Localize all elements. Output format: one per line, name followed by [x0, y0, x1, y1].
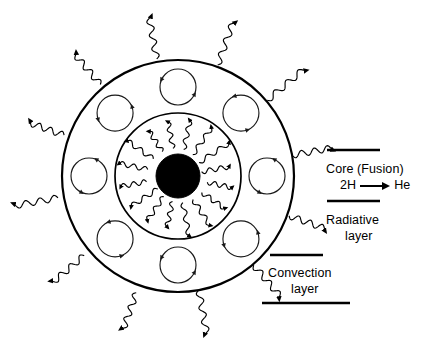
convection-rotation-arrow [158, 255, 164, 261]
radiative-wavy-ray [199, 141, 229, 163]
label-core-equation: 2H He [340, 178, 410, 193]
arrow-right-icon [360, 181, 390, 190]
convection-cell [160, 247, 196, 283]
convection-rotation-arrow [245, 127, 251, 133]
convection-rotation-arrow [105, 219, 111, 225]
convection-cell [223, 95, 259, 131]
convection-cell [160, 69, 196, 105]
convection-rotation-arrow [129, 103, 135, 109]
convection-cell [71, 158, 107, 194]
label-core-title: Core (Fusion) [326, 162, 404, 177]
radiative-wavy-ray [165, 201, 173, 228]
radiative-wavy-ray [202, 193, 227, 210]
emitted-wavy-ray [147, 15, 159, 59]
emitted-wavy-ray [218, 22, 237, 65]
radiative-wavy-ray [202, 165, 230, 173]
emitted-wavy-ray [289, 216, 326, 232]
convection-rotation-arrow [221, 243, 227, 249]
sun-structure-diagram: Core (Fusion) 2H He Radiative layer Conv… [0, 0, 425, 354]
emitted-wavy-ray [196, 290, 209, 336]
emitted-wavy-ray [267, 70, 307, 101]
convection-rotation-arrow [255, 229, 261, 235]
emitted-wavy-ray [12, 195, 58, 208]
radiative-wavy-ray [147, 197, 164, 222]
radiative-wavy-ray [167, 121, 175, 148]
convection-rotation-arrow [192, 91, 198, 97]
label-radiative-layer-line1: Radiative [326, 213, 379, 228]
convection-rotation-arrow [158, 77, 164, 83]
convection-rotation-arrow [257, 190, 263, 196]
core-circle [156, 154, 200, 198]
radiative-wavy-ray [193, 126, 212, 155]
layer-boundaries [62, 60, 294, 292]
core-equation-reactant: 2H [340, 178, 356, 193]
radiative-wavy-ray [148, 131, 164, 151]
diagram-canvas [0, 0, 425, 354]
emitted-wavy-ray [29, 120, 64, 136]
label-convection-layer-line2: layer [291, 282, 319, 297]
radiative-wavy-ray [207, 182, 233, 190]
convection-rotation-arrow [192, 269, 198, 275]
convection-rotation-arrow [271, 156, 277, 162]
core-equation-product: He [394, 178, 410, 193]
convection-rotation-arrow [119, 253, 125, 259]
radiative-wavy-ray [125, 140, 153, 159]
label-convection-layer-line1: Convection [268, 266, 332, 281]
emitted-wavy-ray [292, 146, 334, 158]
convection-cell [97, 221, 133, 257]
convection-cell [223, 221, 259, 257]
emitted-wavy-ray [120, 293, 136, 330]
radiative-wavy-ray [131, 188, 158, 208]
convection-cell [249, 158, 285, 194]
emitted-wavy-ray [75, 51, 101, 84]
convection-cell [97, 95, 133, 131]
convection-rotation-arrow [95, 117, 101, 123]
convection-rotation-arrow [93, 156, 99, 162]
radiative-wavy-ray [120, 180, 146, 188]
radiative-wavy-ray [193, 200, 212, 226]
radiative-wavy-ray [183, 119, 192, 150]
label-radiative-layer-line2: layer [345, 229, 373, 244]
emitted-wavy-ray [50, 255, 85, 282]
convection-rotation-arrow [231, 93, 237, 99]
radiative-wavy-ray [118, 162, 148, 170]
radiative-wavy-ray [181, 203, 190, 237]
convection-rotation-arrow [79, 190, 85, 196]
